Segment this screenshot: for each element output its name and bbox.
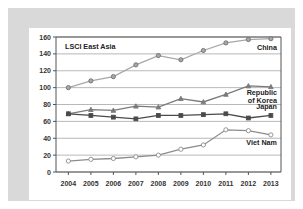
data-point-marker[interactable] [66, 86, 70, 90]
screenshot-root: 020406080100120140160 200420052006200720… [0, 0, 303, 209]
series-label-china: China [257, 43, 278, 52]
series-line[interactable] [68, 114, 271, 119]
x-tick-label: 2012 [241, 180, 257, 187]
data-point-marker[interactable] [134, 155, 138, 159]
x-tick-label: 2007 [128, 180, 144, 187]
data-point-marker[interactable] [89, 107, 94, 111]
data-point-marker[interactable] [201, 113, 205, 117]
chart-title: LSCI East Asia [65, 42, 116, 51]
chart-plot-area[interactable]: 020406080100120140160 200420052006200720… [29, 28, 291, 200]
series-line[interactable] [68, 130, 271, 161]
data-point-marker[interactable] [111, 75, 115, 79]
data-point-marker[interactable] [179, 114, 183, 118]
data-point-marker[interactable] [156, 153, 160, 157]
data-point-marker[interactable] [134, 117, 138, 121]
x-tick-label: 2010 [196, 180, 212, 187]
data-point-marker[interactable] [179, 96, 184, 100]
data-point-marker[interactable] [179, 58, 183, 62]
x-tick-label: 2005 [83, 180, 99, 187]
y-tick-label: 40 [43, 135, 51, 142]
x-tick-label: 2004 [61, 180, 77, 187]
data-point-marker[interactable] [111, 156, 115, 160]
y-tick-label: 60 [43, 118, 51, 125]
y-tick-label: 160 [39, 34, 51, 41]
x-axis-tick-labels: 2004200520062007200820092010201120122013 [61, 180, 279, 187]
series-japan[interactable] [66, 112, 272, 121]
data-point-marker[interactable] [156, 114, 160, 118]
y-tick-label: 140 [39, 50, 51, 57]
x-tick-label: 2009 [173, 180, 189, 187]
data-point-marker[interactable] [224, 112, 228, 116]
data-point-marker[interactable] [89, 114, 93, 118]
series-label-viet-nam: Viet Nam [246, 138, 277, 147]
data-point-marker[interactable] [111, 115, 115, 119]
y-tick-label: 20 [43, 152, 51, 159]
data-point-marker[interactable] [111, 108, 116, 112]
data-point-marker[interactable] [269, 133, 273, 137]
y-tick-label: 0 [47, 169, 51, 176]
y-tick-label: 80 [43, 101, 51, 108]
x-tick-label: 2011 [218, 180, 233, 187]
data-point-marker[interactable] [246, 129, 250, 133]
data-point-marker[interactable] [134, 63, 138, 67]
series-label-japan: Japan [256, 102, 277, 111]
x-tick-label: 2013 [263, 180, 279, 187]
y-tick-label: 100 [39, 84, 51, 91]
data-point-marker[interactable] [156, 53, 160, 57]
data-point-marker[interactable] [201, 143, 205, 147]
data-point-marker[interactable] [224, 41, 228, 45]
series-republic-of-korea[interactable] [66, 84, 273, 116]
data-point-marker[interactable] [89, 157, 93, 161]
x-tick-label: 2008 [151, 180, 167, 187]
data-point-marker[interactable] [269, 37, 273, 41]
chart-card: 020406080100120140160 200420052006200720… [29, 28, 291, 200]
data-point-marker[interactable] [224, 92, 229, 96]
data-point-marker[interactable] [156, 105, 161, 109]
data-series[interactable] [66, 37, 273, 164]
data-point-marker[interactable] [201, 48, 205, 52]
line-chart[interactable]: 020406080100120140160 200420052006200720… [29, 28, 291, 200]
y-axis-tick-labels: 020406080100120140160 [39, 34, 51, 176]
data-point-marker[interactable] [246, 37, 250, 41]
data-point-marker[interactable] [269, 114, 273, 118]
x-tick-label: 2006 [106, 180, 122, 187]
figure-panel: 020406080100120140160 200420052006200720… [8, 8, 295, 201]
data-point-marker[interactable] [66, 112, 70, 116]
data-point-marker[interactable] [66, 159, 70, 163]
series-viet-nam[interactable] [66, 128, 273, 163]
data-point-marker[interactable] [89, 79, 93, 83]
series-line[interactable] [68, 86, 271, 114]
data-point-marker[interactable] [246, 116, 250, 120]
y-tick-label: 120 [39, 67, 51, 74]
data-point-marker[interactable] [224, 128, 228, 132]
data-point-marker[interactable] [179, 147, 183, 151]
data-point-marker[interactable] [201, 100, 206, 104]
